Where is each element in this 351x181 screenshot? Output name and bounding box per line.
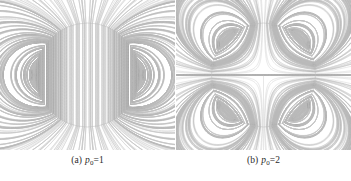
panel-b-streamplot xyxy=(176,0,351,150)
panel-a-caption: (a)p0=1 xyxy=(0,155,175,167)
panel-b-tag: (b) xyxy=(247,155,258,165)
panel-b-caption: (b)p0=2 xyxy=(176,155,351,167)
panel-a: (a)p0=1 xyxy=(0,0,175,181)
panel-a-tag: (a) xyxy=(71,155,82,165)
panel-b: (b)p0=2 xyxy=(176,0,351,181)
panel-a-streamplot xyxy=(0,0,175,150)
panel-b-value: =2 xyxy=(270,155,280,165)
panel-b-plot xyxy=(176,0,351,150)
panel-a-value: =1 xyxy=(94,155,104,165)
panel-a-plot xyxy=(0,0,175,150)
figure-container: (a)p0=1 (b)p0=2 xyxy=(0,0,351,181)
